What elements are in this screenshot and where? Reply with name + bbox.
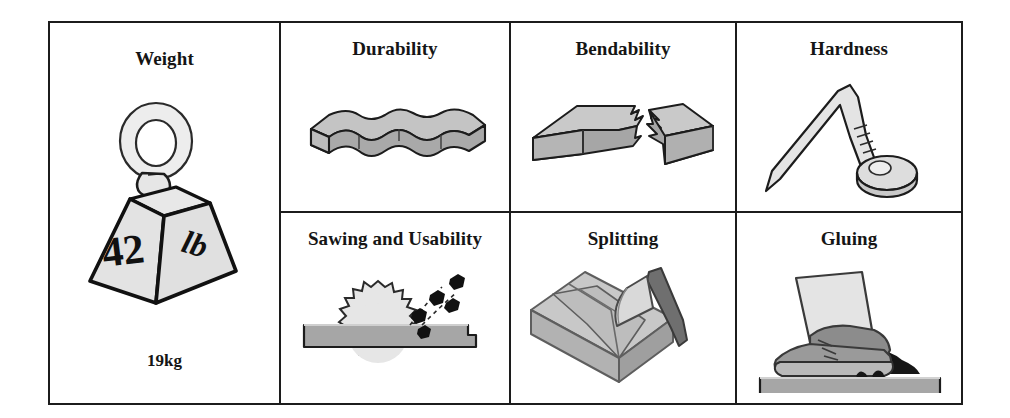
cell-splitting: Splitting bbox=[511, 213, 737, 403]
cell-title-durability: Durability bbox=[352, 39, 437, 58]
cell-sawing-and-usability: Sawing and Usability bbox=[281, 213, 511, 403]
properties-grid: Weight 42 lb 19kg bbox=[48, 21, 963, 405]
glued-boot-icon bbox=[744, 258, 954, 393]
weathered-plank-icon bbox=[295, 85, 495, 185]
cell-title-weight: Weight bbox=[135, 49, 194, 68]
cell-bendability: Bendability bbox=[511, 23, 737, 213]
splitting-illustration bbox=[511, 248, 735, 403]
weight-illustration: 42 lb bbox=[50, 68, 279, 352]
cell-title-sawing-and-usability: Sawing and Usability bbox=[308, 229, 482, 248]
cell-durability: Durability bbox=[281, 23, 511, 213]
cell-hardness: Hardness bbox=[737, 23, 961, 213]
bendability-illustration bbox=[511, 58, 735, 211]
cell-title-bendability: Bendability bbox=[575, 39, 670, 58]
bent-nail-icon bbox=[754, 67, 944, 202]
cell-title-splitting: Splitting bbox=[588, 229, 659, 248]
cell-title-hardness: Hardness bbox=[810, 39, 888, 58]
cell-weight: Weight 42 lb 19kg bbox=[50, 23, 281, 403]
durability-illustration bbox=[281, 58, 509, 211]
circular-saw-blade-icon bbox=[290, 263, 500, 388]
hanging-weight-icon: 42 lb bbox=[60, 95, 270, 325]
snapped-beam-icon bbox=[523, 80, 723, 190]
hardness-illustration bbox=[737, 58, 961, 211]
cell-gluing: Gluing bbox=[737, 213, 961, 403]
gluing-illustration bbox=[737, 248, 961, 403]
weight-value-lb: 42 bbox=[99, 225, 146, 276]
weight-caption-kg: 19kg bbox=[147, 352, 182, 369]
cell-title-gluing: Gluing bbox=[821, 229, 878, 248]
log-and-axe-icon bbox=[523, 258, 723, 393]
sawing-illustration bbox=[281, 248, 509, 403]
